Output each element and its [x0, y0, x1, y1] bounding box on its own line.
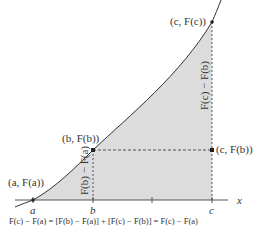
point-cb [210, 148, 214, 152]
tick-label-b: b [90, 204, 96, 216]
tick-label-c: c [209, 204, 214, 216]
label-point-c: (c, F(c)) [170, 15, 206, 28]
point-c [210, 20, 214, 24]
fundamental-theorem-diagram: x (a, F(a)) (b, F(b)) (c, F(c)) (c, F(b)… [0, 0, 253, 230]
shaded-region [33, 22, 212, 200]
equation: F(c) − F(a) = [F(b) − F(a)] + [F(c) − F(… [9, 216, 198, 226]
label-point-cb: (c, F(b)) [216, 143, 253, 156]
vertical-label-fc-fb: F(c) − F(b) [198, 61, 211, 110]
tick-label-a: a [30, 204, 36, 216]
label-point-a: (a, F(a)) [8, 176, 44, 189]
point-a [31, 198, 35, 202]
label-point-b: (b, F(b)) [62, 132, 100, 145]
vertical-label-fb-fa: F(b) − F(a) [78, 146, 91, 195]
x-axis-label: x [236, 194, 242, 206]
point-b [91, 148, 95, 152]
